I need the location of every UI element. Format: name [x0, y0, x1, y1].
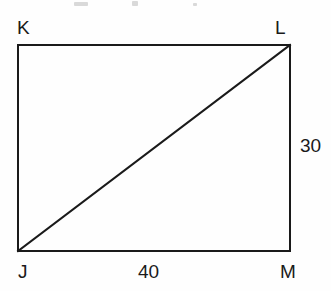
vertex-label-K: K — [17, 18, 30, 37]
geometry-figure: K L M J 40 30 — [0, 0, 331, 291]
vertex-label-L: L — [275, 18, 286, 37]
measure-label-bottom-40: 40 — [138, 262, 159, 281]
diagonal-JL — [18, 45, 290, 251]
vertex-label-J: J — [18, 262, 28, 281]
rectangle-diagram-svg — [0, 0, 331, 291]
vertex-label-M: M — [280, 262, 296, 281]
measure-label-right-30: 30 — [300, 136, 321, 155]
